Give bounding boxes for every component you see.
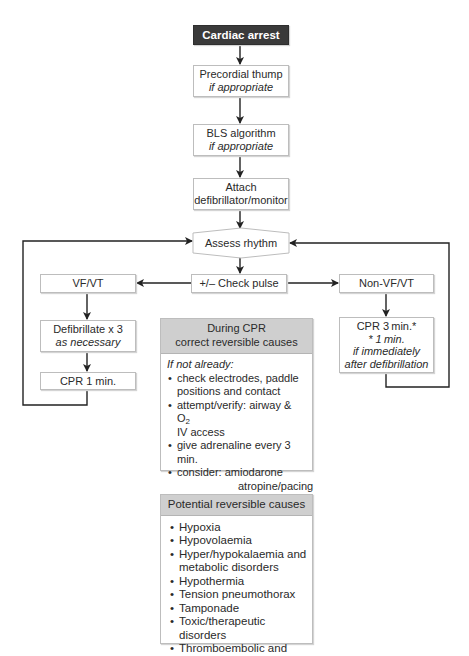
list-item: Hypothermia	[169, 575, 308, 589]
reversible-causes-body: Hypoxia Hypovolaemia Hyper/hypokalaemia …	[161, 516, 312, 656]
cpr-3-min-box: CPR 3 min.* * 1 min. if immediately afte…	[339, 317, 434, 373]
during-cpr-header: During CPR correct reversible causes	[161, 319, 312, 354]
list-item: Hypoxia	[169, 521, 308, 535]
assess-rhythm-box: Assess rhythm	[193, 229, 289, 257]
list-item: Hypovolaemia	[169, 534, 308, 548]
list-item: Tension pneumothorax	[169, 588, 308, 602]
assess-rhythm-label: Assess rhythm	[205, 237, 277, 249]
precordial-condition: if appropriate	[209, 81, 273, 94]
cpr-3-min-footnote: * 1 min.	[368, 333, 404, 346]
cpr-1-min-box: CPR 1 min.	[40, 372, 136, 390]
list-item: attempt/verify: airway & O2IV access	[167, 399, 306, 440]
vf-vt-box: VF/VT	[40, 274, 136, 293]
attach-device: defibrillator/monitor	[194, 194, 288, 207]
list-item: Hyper/hypokalaemia and metabolic disorde…	[169, 548, 308, 575]
check-pulse-box: +/– Check pulse	[191, 274, 287, 293]
reversible-causes-title: Potential reversible causes	[163, 498, 310, 512]
list-item: Thromboembolic and	[169, 642, 308, 656]
reversible-causes-panel: Potential reversible causes Hypoxia Hypo…	[160, 494, 313, 644]
vf-vt-label: VF/VT	[72, 277, 103, 290]
iv-access-text: IV access	[177, 426, 225, 438]
list-item: give adrenaline every 3 min.	[167, 439, 306, 466]
list-item: consider: amiodarone	[167, 466, 306, 480]
bls-label: BLS algorithm	[206, 127, 275, 140]
during-cpr-body: If not already: check electrodes, paddle…	[161, 354, 312, 513]
during-cpr-subtitle: correct reversible causes	[163, 336, 310, 350]
defibrillate-label: Defibrillate x 3	[53, 323, 123, 336]
consider-atropine: atropine/pacing	[167, 480, 306, 494]
cardiac-arrest-box: Cardiac arrest	[193, 25, 289, 45]
cpr-1-min-label: CPR 1 min.	[60, 375, 116, 388]
airway-text: attempt/verify: airway & O	[177, 399, 291, 425]
bls-algorithm-box: BLS algorithm if appropriate	[193, 124, 289, 156]
list-item: check electrodes, paddle positions and c…	[167, 372, 306, 399]
list-item: Toxic/therapeutic disorders	[169, 615, 308, 642]
during-cpr-panel: During CPR correct reversible causes If …	[160, 318, 313, 471]
list-item: Tamponade	[169, 602, 308, 616]
reversible-causes-list: Hypoxia Hypovolaemia Hyper/hypokalaemia …	[169, 521, 308, 656]
attach-monitor-box: Attach defibrillator/monitor	[193, 178, 289, 210]
bls-condition: if appropriate	[209, 140, 273, 153]
check-pulse-label: +/– Check pulse	[199, 277, 278, 290]
during-cpr-list: check electrodes, paddle positions and c…	[167, 372, 306, 480]
during-cpr-title: During CPR	[163, 322, 310, 336]
cpr-3-min-condition-2: after defibrillation	[345, 358, 429, 371]
cpr-3-min-condition-1: if immediately	[353, 345, 420, 358]
during-cpr-intro: If not already:	[167, 358, 306, 372]
non-vf-vt-box: Non-VF/VT	[339, 274, 434, 293]
reversible-causes-header: Potential reversible causes	[161, 495, 312, 516]
cpr-3-min-label: CPR 3 min.*	[357, 320, 417, 333]
precordial-thump-box: Precordial thump if appropriate	[193, 65, 289, 97]
cardiac-arrest-label: Cardiac arrest	[202, 29, 279, 42]
defibrillate-box: Defibrillate x 3 as necessary	[40, 320, 136, 352]
attach-label: Attach	[225, 181, 256, 194]
defibrillate-condition: as necessary	[56, 336, 121, 349]
precordial-thump-label: Precordial thump	[199, 68, 282, 81]
non-vf-vt-label: Non-VF/VT	[359, 277, 414, 290]
